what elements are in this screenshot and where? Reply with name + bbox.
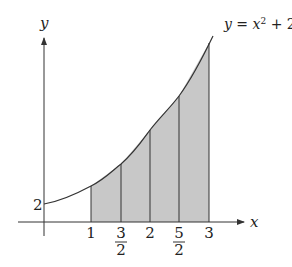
function-label: y = x2 + 2 bbox=[223, 16, 292, 32]
x-axis-label: x bbox=[250, 213, 259, 231]
x-tick-3-2-num: 3 bbox=[116, 224, 126, 242]
y-tick-label: 2 bbox=[33, 196, 43, 214]
trapezoid-diagram: x y 2 y = x2 + 2 1 3 2 2 5 2 3 bbox=[0, 0, 292, 267]
x-tick-5-2-num: 5 bbox=[174, 224, 184, 242]
y-axis-label: y bbox=[39, 14, 49, 32]
x-tick-3: 3 bbox=[204, 224, 214, 242]
x-tick-3-2-den: 2 bbox=[116, 241, 126, 259]
x-tick-1: 1 bbox=[86, 224, 96, 242]
x-tick-5-2-den: 2 bbox=[174, 241, 184, 259]
x-tick-2: 2 bbox=[145, 224, 155, 242]
x-tick-labels: 1 3 2 2 5 2 3 bbox=[86, 224, 214, 259]
